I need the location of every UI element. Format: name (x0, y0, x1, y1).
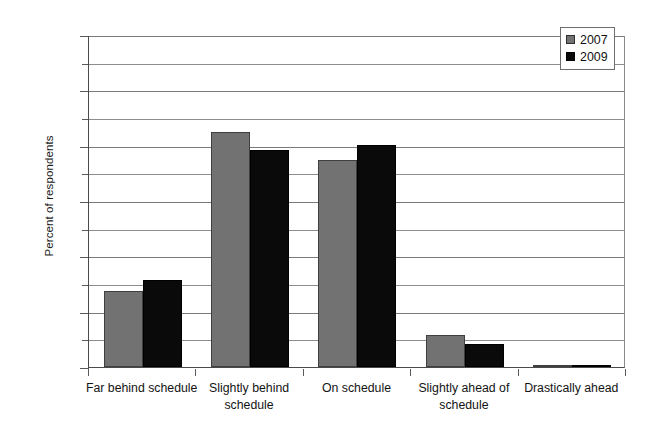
x-axis-tick (303, 369, 304, 376)
x-axis-category-label: Slightly behind schedule (189, 380, 308, 414)
x-axis-tick (88, 369, 89, 376)
plot-area (88, 36, 625, 368)
chart-legend: 2007 2009 (560, 27, 615, 70)
bar-group (519, 36, 626, 367)
legend-item-2009: 2009 (566, 48, 608, 65)
x-axis-tick (625, 369, 626, 376)
bar-2007-1 (104, 291, 143, 367)
bar-2009-3 (357, 145, 396, 367)
legend-item-2007: 2007 (566, 31, 608, 48)
x-axis-tick (195, 369, 196, 376)
bar-group (411, 36, 518, 367)
x-axis-category-label: Slightly ahead of schedule (404, 380, 523, 414)
legend-label-2007: 2007 (580, 33, 608, 47)
x-axis-category-label: Drastically ahead (512, 380, 631, 397)
bar-group (196, 36, 303, 367)
x-axis-tick (410, 369, 411, 376)
bar-2009-2 (250, 150, 289, 367)
bar-2007-3 (318, 160, 357, 367)
bar-2007-2 (211, 132, 250, 367)
legend-swatch-icon-2007 (566, 35, 575, 44)
bar-2007-5 (533, 365, 572, 367)
bar-2009-4 (465, 344, 504, 367)
x-axis-category-label: Far behind schedule (82, 380, 201, 397)
x-axis-tick (518, 369, 519, 376)
bar-group (89, 36, 196, 367)
y-axis-title: Percent of respondents (43, 86, 55, 306)
legend-label-2009: 2009 (580, 50, 608, 64)
x-axis-category-label: On schedule (297, 380, 416, 397)
bar-2009-1 (143, 280, 182, 367)
bar-chart: Percent of respondents 0%10%20%30%40%50%… (0, 0, 657, 439)
legend-swatch-icon-2009 (566, 52, 575, 61)
bar-2009-5 (572, 365, 611, 367)
bar-group (304, 36, 411, 367)
bar-2007-4 (426, 335, 465, 367)
